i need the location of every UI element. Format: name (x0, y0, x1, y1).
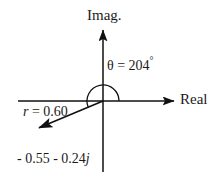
rectangular-form-label: - 0.55 - 0.24j (17, 152, 90, 166)
magnitude-value: = 0.60 (28, 104, 67, 119)
imaginary-axis-label: Imag. (87, 8, 122, 23)
rectangular-form-numbers: - 0.55 - 0.24 (17, 151, 86, 166)
diagram-canvas (0, 0, 213, 176)
angle-label: θ = 204° (107, 59, 154, 73)
magnitude-label: r = 0.60 (23, 105, 68, 119)
complex-plane-phasor-diagram: Imag. Real θ = 204° r = 0.60 - 0.55 - 0.… (0, 0, 213, 176)
degree-symbol: ° (150, 55, 154, 66)
angle-value-text: θ = 204 (107, 58, 150, 73)
imaginary-unit: j (86, 151, 90, 166)
real-axis-label: Real (180, 92, 208, 107)
